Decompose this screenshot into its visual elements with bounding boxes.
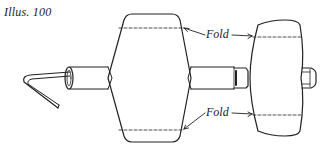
- middle-shaft-icon: [191, 67, 248, 89]
- drum-assembly-drawing: [0, 0, 333, 154]
- fold-label-bottom: Fold: [206, 106, 229, 118]
- fold-label-top: Fold: [206, 28, 229, 40]
- large-drum-icon: [108, 14, 191, 142]
- small-drum-icon: [250, 20, 303, 136]
- shaft-end-cap-icon: [302, 68, 316, 88]
- left-shaft-icon: [65, 67, 108, 89]
- illustration: Illus. 100: [0, 0, 333, 154]
- bent-wire-handle-icon: [24, 72, 70, 108]
